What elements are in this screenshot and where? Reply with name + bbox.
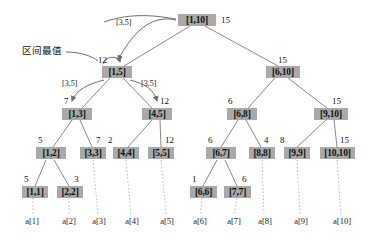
query-interval-label: [3,5] (116, 18, 131, 27)
tree-node[interactable]: [5,5] (148, 147, 174, 159)
node-value-label: 1 (192, 174, 197, 184)
solid-tree-edges (35, 26, 337, 186)
range-extremum-annotation: 区间最值 (22, 45, 62, 56)
node-value-label: 8 (280, 135, 285, 145)
tree-node[interactable]: [3,3] (80, 147, 106, 159)
tree-node[interactable]: [4,4] (113, 147, 139, 159)
node-value-label: 3 (74, 174, 79, 184)
tree-node[interactable]: [7,7] (224, 186, 251, 198)
array-leaf-label: a[3] (84, 216, 114, 226)
node-value-label: 15 (340, 135, 349, 145)
array-leaf-label: a[7] (219, 216, 249, 226)
node-value-label: 5 (38, 135, 43, 145)
array-leaf-label: a[1] (17, 216, 47, 226)
tree-node[interactable]: [1,5] (102, 66, 132, 78)
array-leaf-label: a[5] (152, 216, 182, 226)
tree-node[interactable]: [1,3] (62, 108, 92, 120)
array-leaf-label: a[4] (117, 216, 147, 226)
node-value-label: 15 (332, 96, 341, 106)
tree-node[interactable]: [9,9] (284, 147, 310, 159)
node-value-label: 5 (24, 174, 29, 184)
array-leaf-label: a[8] (250, 216, 280, 226)
query-interval-label: [3,5] (141, 79, 156, 88)
array-leaf-label: a[9] (286, 216, 316, 226)
node-value-label: 12 (98, 55, 107, 65)
node-value-label: 7 (96, 135, 101, 145)
tree-node[interactable]: [10,10] (320, 147, 355, 159)
array-leaf-label: a[6] (185, 216, 215, 226)
tree-node[interactable]: [1,1] (22, 186, 48, 198)
node-value-label: 4 (264, 135, 269, 145)
tree-node[interactable]: [6,10] (266, 66, 300, 78)
tree-node[interactable]: [8,8] (249, 147, 275, 159)
segment-tree-diagram: [1,10] [1,5] [6,10] [1,3] [4,5] [6,8] [9… (0, 0, 375, 240)
tree-node[interactable]: [1,10] (178, 14, 216, 26)
node-value-label: 12 (165, 135, 174, 145)
node-value-label: 15 (221, 15, 230, 25)
array-leaf-label: a[2] (54, 216, 84, 226)
tree-edges-layer (0, 0, 375, 240)
node-value-label: 2 (108, 135, 113, 145)
node-value-label: 12 (160, 96, 169, 106)
tree-node[interactable]: [9,10] (314, 108, 348, 120)
tree-node[interactable]: [6,8] (227, 108, 257, 120)
query-interval-label: [3,5] (62, 79, 77, 88)
node-value-label: 7 (64, 96, 69, 106)
node-value-label: 15 (278, 55, 287, 65)
tree-node[interactable]: [4,5] (142, 108, 172, 120)
node-value-label: 6 (228, 96, 233, 106)
query-path-arrows (66, 16, 176, 101)
tree-node[interactable]: [2,2] (57, 186, 83, 198)
tree-node[interactable]: [1,2] (36, 147, 66, 159)
tree-node[interactable]: [6,7] (206, 147, 236, 159)
array-leaf-label: a[10] (325, 216, 359, 226)
tree-node[interactable]: [6,6] (190, 186, 217, 198)
node-value-label: 6 (208, 135, 213, 145)
node-value-label: 6 (242, 174, 247, 184)
